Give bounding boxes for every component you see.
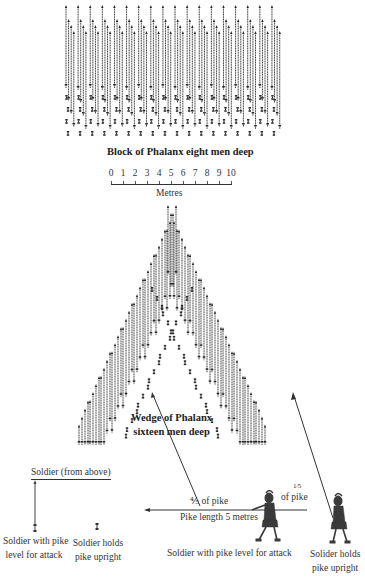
upright-soldier-caption: Solider holds pike upright <box>310 547 360 575</box>
pike-length-label: Pike length 5 metres <box>180 510 258 524</box>
rear-fraction-numerator: 1⁄5 <box>293 482 301 490</box>
level-soldier-caption: Soldier with pike level for attack <box>167 546 292 560</box>
rear-fraction-label: of pike <box>281 490 308 504</box>
front-fraction-label: ⅘ of pike <box>190 494 228 508</box>
upright-pike-line <box>0 0 365 580</box>
